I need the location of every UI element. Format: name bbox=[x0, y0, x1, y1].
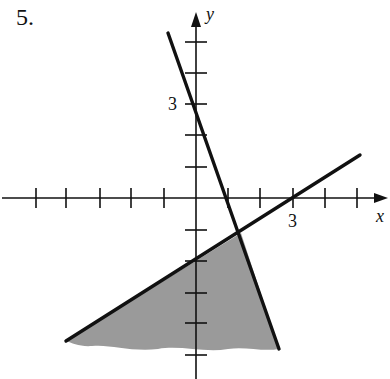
x-axis-arrow-icon bbox=[374, 193, 388, 203]
shaded-region bbox=[66, 233, 279, 350]
x-tick-label-3: 3 bbox=[288, 211, 297, 231]
graph: y x 3 3 bbox=[0, 0, 390, 379]
y-axis-label: y bbox=[204, 4, 214, 24]
x-axis bbox=[2, 188, 378, 208]
y-tick-label-3: 3 bbox=[168, 94, 177, 114]
x-axis-label: x bbox=[375, 206, 384, 226]
y-axis-arrow-icon bbox=[191, 12, 201, 27]
